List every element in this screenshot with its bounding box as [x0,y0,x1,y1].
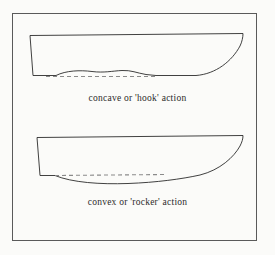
rocker-deck-line [37,136,243,138]
hook-deck-line [30,34,243,36]
rocker-reference-dashed-line [55,175,166,176]
hook-keel-line [33,34,243,76]
figure-container: concave or 'hook' action convex or 'rock… [0,0,275,255]
hook-transom-line [30,36,33,76]
hull-profiles-drawing [0,0,275,255]
caption-hook: concave or 'hook' action [0,93,275,103]
rocker-keel-line [40,136,243,184]
rocker-transom-line [37,138,40,176]
caption-rocker: convex or 'rocker' action [0,197,275,207]
rocker-hull-profile [37,136,243,184]
hook-hull-profile [30,34,243,77]
